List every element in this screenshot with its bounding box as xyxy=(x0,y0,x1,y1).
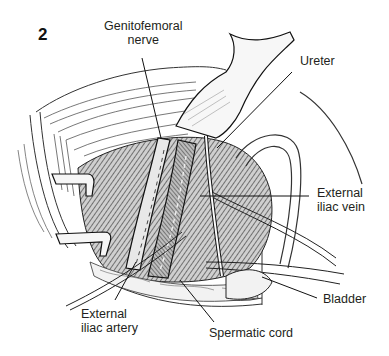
figure-number: 2 xyxy=(38,25,47,45)
surgical-illustration: 2 Genitofemoral nerve Ureter External il… xyxy=(0,0,389,356)
label-external-iliac-vein: External iliac vein xyxy=(317,186,365,214)
retractor-left-upper xyxy=(52,174,94,196)
label-spermatic-cord: Spermatic cord xyxy=(209,326,293,340)
retractor-top xyxy=(176,32,294,138)
bladder-drawing xyxy=(226,270,272,299)
label-ureter: Ureter xyxy=(300,54,335,68)
retractor-left-lower xyxy=(56,232,111,256)
label-genitofemoral-nerve: Genitofemoral nerve xyxy=(104,19,183,47)
label-bladder: Bladder xyxy=(323,292,366,306)
leader-bladder xyxy=(262,277,317,298)
label-external-iliac-artery: External iliac artery xyxy=(81,307,138,335)
